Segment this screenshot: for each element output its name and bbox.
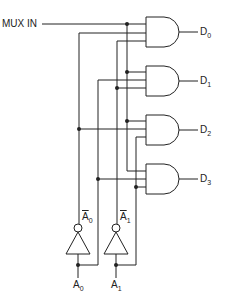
- inverter-a0-bubble: [74, 224, 82, 232]
- and-gate-d3: [146, 164, 179, 194]
- inverter-a1: [104, 232, 128, 254]
- a0-input-label: A0: [73, 280, 84, 290]
- a1-bus: [116, 137, 146, 265]
- and-gate-d0: [146, 17, 179, 47]
- a1-bar-label: A1: [120, 212, 131, 222]
- mux-in-label: MUX IN: [2, 19, 37, 29]
- output-d1-label: D1: [200, 76, 211, 86]
- output-d3-label: D3: [200, 174, 211, 184]
- circuit-diagram: [0, 0, 234, 302]
- and-gate-d2: [146, 115, 179, 145]
- a1-input-label: A1: [111, 280, 122, 290]
- a1-bar-bus: [117, 41, 146, 220]
- a0-bar-label: A0: [82, 212, 93, 222]
- output-d0-label: D0: [200, 27, 211, 37]
- output-d2-label: D2: [200, 125, 211, 135]
- inverter-a0: [66, 232, 90, 254]
- junction-dots: [76, 22, 138, 267]
- inverter-a1-bubble: [112, 224, 120, 232]
- and-gate-d1: [146, 66, 179, 96]
